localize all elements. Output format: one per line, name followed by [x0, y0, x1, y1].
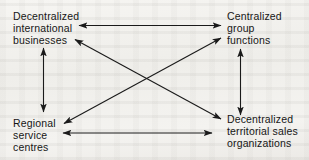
- node-label-line: Regional: [13, 117, 56, 129]
- node-label-line: Centralized: [227, 10, 282, 22]
- node-regional-service-centres: Regional service centres: [13, 117, 56, 153]
- node-label-line: organizations: [227, 137, 298, 149]
- node-label-line: businesses: [13, 34, 79, 46]
- node-label-line: centres: [13, 141, 56, 153]
- node-label-line: functions: [227, 34, 282, 46]
- node-label-line: Decentralized: [13, 10, 79, 22]
- diagram-canvas: Decentralized international businesses C…: [0, 0, 309, 160]
- node-label-line: international: [13, 22, 79, 34]
- node-centralized-group-functions: Centralized group functions: [227, 10, 282, 46]
- node-decentralized-international-businesses: Decentralized international businesses: [13, 10, 79, 46]
- connector-diagonal-top-left-to-bottom-right: [75, 40, 221, 120]
- node-label-line: Decentralized: [227, 113, 298, 125]
- node-label-line: group: [227, 22, 282, 34]
- node-decentralized-territorial-sales-organizations: Decentralized territorial sales organiza…: [227, 113, 298, 149]
- node-label-line: territorial sales: [227, 125, 298, 137]
- node-label-line: service: [13, 129, 56, 141]
- connector-diagonal-bottom-left-to-top-right: [64, 38, 221, 124]
